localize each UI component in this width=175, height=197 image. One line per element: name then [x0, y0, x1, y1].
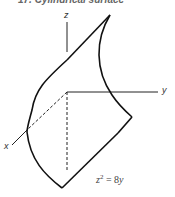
x-axis-label: x: [4, 141, 9, 151]
surface-equation: z2 = 8y: [96, 173, 124, 185]
surface-top-edge: [67, 15, 110, 60]
surface-back-curve: [99, 15, 132, 117]
equation-rhs: y: [119, 174, 123, 185]
z-axis-label: z: [64, 10, 69, 20]
x-axis-hidden: [27, 92, 67, 130]
cylindrical-surface-diagram: [0, 0, 175, 197]
equation-middle: = 8: [103, 174, 119, 185]
x-axis: [12, 130, 27, 145]
y-axis-label: y: [162, 85, 167, 95]
surface-right-edge: [118, 117, 132, 133]
